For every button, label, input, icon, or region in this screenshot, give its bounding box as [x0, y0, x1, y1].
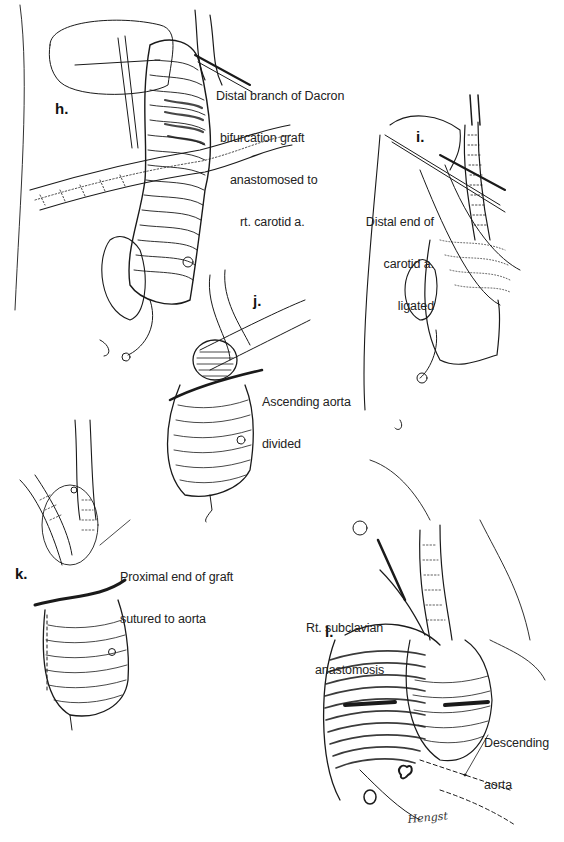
caption-l-descending-aorta: Descending aorta [484, 708, 549, 806]
artist-signature: Hengst [406, 809, 449, 826]
panel-label-k: k. [15, 565, 28, 582]
caption-line: carotid a. [352, 257, 434, 271]
panel-label-i: i. [416, 128, 424, 145]
caption-line: anastomosis [315, 663, 384, 677]
panel-label-h: h. [55, 100, 68, 117]
caption-l: Rt. subclavian anastomosis [306, 593, 384, 691]
caption-line: Distal end of [352, 215, 434, 229]
caption-line: Ascending aorta [262, 395, 351, 409]
caption-h: Distal branch of Dacron bifurcation graf… [216, 61, 344, 243]
caption-line: Rt. subclavian [306, 621, 384, 635]
caption-k: Proximal end of graft sutured to aorta [120, 542, 233, 640]
caption-line: aorta [484, 778, 549, 792]
caption-line: Distal branch of Dacron [216, 89, 344, 103]
caption-line: rt. carotid a. [240, 215, 344, 229]
panel-label-j: j. [253, 292, 261, 309]
caption-line: Proximal end of graft [120, 570, 233, 584]
caption-i: Distal end of carotid a. ligated [352, 187, 434, 327]
caption-line: ligated [352, 299, 434, 313]
caption-line: bifurcation graft [220, 131, 344, 145]
caption-j: Ascending aorta divided [262, 367, 351, 465]
caption-line: Descending [484, 736, 549, 750]
caption-line: sutured to aorta [120, 612, 233, 626]
caption-line: anastomosed to [230, 173, 344, 187]
panel-k-drawing [20, 420, 130, 730]
caption-line: divided [262, 437, 351, 451]
